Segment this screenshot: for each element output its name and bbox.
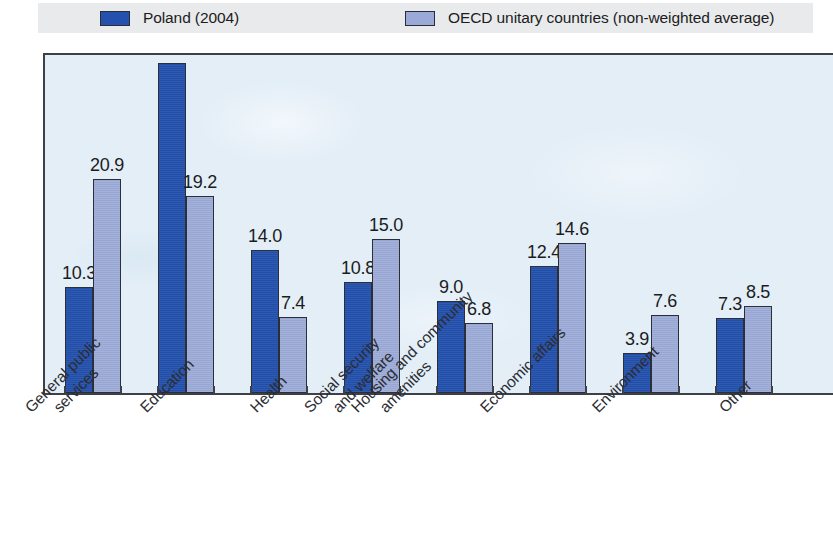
- x-axis-tick: [678, 386, 680, 393]
- bar-group: 32.219.2: [158, 55, 214, 393]
- bar-value-label: 10.3: [61, 263, 97, 284]
- x-axis-tick: [306, 386, 308, 393]
- bar-value-label: 8.5: [740, 282, 776, 303]
- bar-oecd[interactable]: [558, 243, 586, 393]
- bar-value-label: 14.6: [554, 219, 590, 240]
- legend-entry-poland: Poland (2004): [100, 3, 239, 33]
- bar-value-label: 10.8: [340, 258, 376, 279]
- x-axis-tick: [771, 386, 773, 393]
- x-axis-tick: [120, 386, 122, 393]
- x-axis-tick: [436, 386, 438, 393]
- bar-value-label: 12.4: [526, 242, 562, 263]
- bar-poland[interactable]: [158, 63, 186, 393]
- bar-oecd[interactable]: [744, 306, 772, 393]
- legend-label-poland: Poland (2004): [143, 9, 239, 27]
- bar-value-label: 7.6: [647, 291, 683, 312]
- bar-group: 3.97.6: [623, 55, 679, 393]
- bar-value-label: 15.0: [368, 215, 404, 236]
- chart-legend: Poland (2004) OECD unitary countries (no…: [38, 3, 813, 33]
- legend-entry-oecd: OECD unitary countries (non-weighted ave…: [405, 3, 774, 33]
- bar-group: 7.38.5: [716, 55, 772, 393]
- legend-swatch-oecd-icon: [405, 11, 435, 26]
- legend-swatch-poland-icon: [100, 11, 130, 26]
- bar-value-label: 32.2: [154, 53, 190, 60]
- bar-value-label: 19.2: [182, 172, 218, 193]
- x-axis-tick: [250, 386, 252, 393]
- bar-value-label: 14.0: [247, 226, 283, 247]
- x-axis-tick: [585, 386, 587, 393]
- x-axis-tick: [213, 386, 215, 393]
- bar-group: 14.07.4: [251, 55, 307, 393]
- bar-value-label: 7.4: [275, 293, 311, 314]
- x-axis-tick: [715, 386, 717, 393]
- x-axis-tick: [529, 386, 531, 393]
- legend-label-oecd: OECD unitary countries (non-weighted ave…: [448, 9, 774, 27]
- bar-value-label: 20.9: [89, 155, 125, 176]
- bar-poland[interactable]: [251, 250, 279, 393]
- x-axis-category-labels: General publicservicesEducationHealthSoc…: [0, 395, 813, 547]
